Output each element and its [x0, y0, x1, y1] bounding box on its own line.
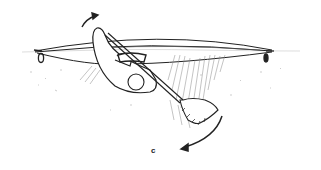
rotation-arrow-icon	[82, 13, 98, 27]
figure-label: c	[151, 146, 155, 155]
kayak-roll-figure	[0, 0, 321, 170]
illustration-canvas	[0, 0, 321, 170]
paddler-head	[128, 74, 144, 90]
kayak-hull	[35, 39, 272, 64]
